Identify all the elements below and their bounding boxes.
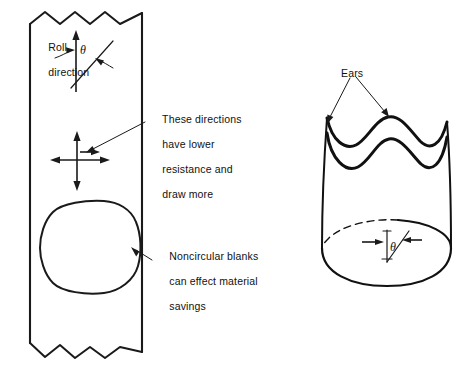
- directions-note-line2: have lower: [162, 138, 214, 150]
- blank-note-line3: savings: [169, 300, 206, 312]
- cross-up-arrowhead: [73, 131, 80, 141]
- ears-leader-line-right: [356, 77, 385, 112]
- cup-theta-symbol: θ: [390, 240, 396, 255]
- cross-down-arrowhead: [73, 181, 80, 191]
- cup-back-rim-wave: [327, 117, 447, 147]
- theta-diagonal-pointer-arrowhead: [95, 58, 104, 66]
- ears-leader-group: [327, 77, 389, 124]
- directions-note-line3: resistance and: [162, 163, 232, 175]
- blank-note-leader-arrowhead: [131, 247, 139, 256]
- directions-note-leader-line: [91, 122, 145, 150]
- ears-label: Ears: [341, 67, 363, 80]
- direction-cross-group: [50, 131, 110, 191]
- cup-right-wall: [447, 122, 451, 248]
- blank-note-line2: can effect material: [169, 275, 257, 287]
- noncircular-blank-outline: [40, 201, 140, 294]
- directions-note-line4: draw more: [162, 188, 213, 200]
- cup-angle-right-pointer-arrowhead: [402, 237, 411, 243]
- directions-note-leader-arrowhead: [86, 146, 96, 153]
- roll-direction-label: Roll direction: [36, 28, 89, 91]
- roll-direction-label-line2: direction: [48, 66, 89, 78]
- cup-angle-left-pointer-arrowhead: [375, 239, 384, 245]
- cup-base-back-arc-right: [398, 220, 451, 248]
- technical-diagram-figure: Roll direction θ These directions have l…: [0, 0, 466, 383]
- ears-leader-arrowhead-left: [327, 114, 333, 124]
- strip-top-break-line: [30, 12, 142, 24]
- cup-front-rim-wave: [327, 133, 447, 168]
- cup-left-wall: [322, 118, 327, 248]
- strip-bottom-break-line: [30, 343, 142, 358]
- blank-note-label: Noncircular blanks can effect material s…: [157, 237, 258, 325]
- roll-direction-label-line1: Roll: [48, 41, 67, 53]
- directions-note-leader-group: [86, 122, 145, 153]
- ears-leader-line-left: [329, 78, 350, 119]
- directions-note-line1: These directions: [162, 113, 241, 125]
- directions-note-label: These directions have lower resistance a…: [150, 100, 242, 213]
- blank-note-line1: Noncircular blanks: [169, 250, 258, 262]
- strip-theta-symbol: θ: [80, 43, 86, 58]
- cross-right-arrowhead: [100, 156, 110, 163]
- cross-left-arrowhead: [50, 156, 60, 163]
